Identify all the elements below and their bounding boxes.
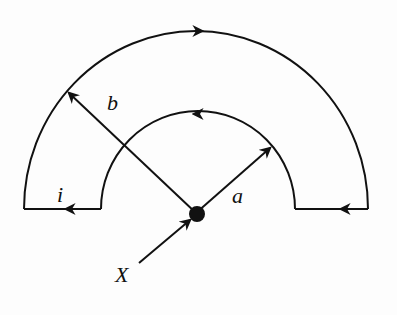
label-a: a: [232, 185, 243, 207]
diagram-drawing: [0, 0, 397, 315]
center-point: [189, 206, 205, 222]
current-loop-diagram: b a i X: [0, 0, 397, 315]
label-x: X: [115, 264, 128, 286]
outer-arc: [24, 31, 368, 209]
radius-b-arrow: [69, 93, 196, 213]
inner-arc: [101, 111, 295, 209]
label-b: b: [107, 92, 118, 114]
point-x-arrow: [139, 220, 190, 263]
label-i: i: [57, 184, 63, 206]
